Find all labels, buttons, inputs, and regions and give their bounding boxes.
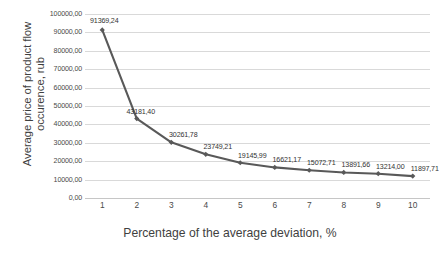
data-point-label: 15072,71	[307, 159, 335, 167]
x-axis-title: Percentage of the average deviation, %	[60, 226, 400, 240]
y-axis-tick-label: 0,00	[28, 194, 82, 202]
y-axis-tick-label: 90000,00	[28, 28, 82, 36]
data-point-label: 30261,78	[169, 131, 197, 139]
data-point-label: 11897,71	[411, 165, 439, 173]
data-point-label: 43181,40	[127, 108, 155, 116]
x-axis-tick-label: 5	[238, 200, 243, 210]
y-axis-tick-label: 80000,00	[28, 47, 82, 55]
y-axis-tick-label: 100000,00	[28, 10, 82, 18]
data-point-marker	[376, 171, 381, 176]
data-point-label: 23749,21	[204, 143, 232, 151]
data-point-label: 19145,99	[238, 152, 266, 160]
y-axis-tick-label: 70000,00	[28, 65, 82, 73]
y-axis-tick-label: 50000,00	[28, 102, 82, 110]
y-axis-tick-label: 20000,00	[28, 157, 82, 165]
data-point-marker	[341, 170, 346, 175]
x-axis-tick-label: 8	[341, 200, 346, 210]
x-axis-tick-label: 6	[272, 200, 277, 210]
data-point-label: 91369,24	[90, 17, 118, 25]
data-point-marker	[238, 160, 243, 165]
data-point-label: 13891,66	[342, 161, 370, 169]
x-axis-tick-label: 9	[376, 200, 381, 210]
y-axis-tick-label: 10000,00	[28, 176, 82, 184]
x-axis-tick-label: 4	[203, 200, 208, 210]
data-point-marker	[410, 174, 415, 179]
x-axis-tick-label: 7	[307, 200, 312, 210]
data-point-marker	[307, 168, 312, 173]
x-axis-tick-labels: 12345678910	[85, 200, 430, 214]
data-point-marker	[203, 152, 208, 157]
data-point-label: 16621,17	[273, 156, 301, 164]
plot-area: 91369,2443181,4030261,7823749,2119145,99…	[85, 14, 430, 198]
data-point-marker	[272, 165, 277, 170]
y-axis-tick-label: 40000,00	[28, 120, 82, 128]
x-axis-tick-label: 2	[134, 200, 139, 210]
y-axis-tick-label: 30000,00	[28, 139, 82, 147]
x-axis-tick-label: 10	[408, 200, 417, 210]
y-axis-tick-labels: 0,0010000,0020000,0030000,0040000,005000…	[28, 14, 82, 198]
data-point-label: 13214,00	[376, 163, 404, 171]
gridline	[85, 198, 430, 199]
x-axis-tick-label: 3	[169, 200, 174, 210]
x-axis-tick-label: 1	[100, 200, 105, 210]
y-axis-tick-label: 60000,00	[28, 84, 82, 92]
